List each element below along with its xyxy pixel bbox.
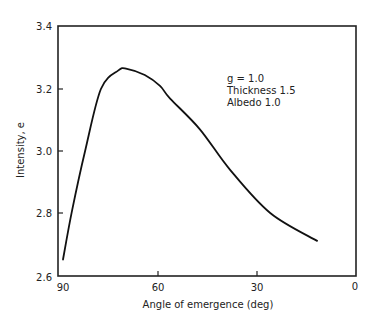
y-tick-label: 2.8 bbox=[36, 208, 52, 219]
x-tick-label: 30 bbox=[251, 282, 264, 293]
annotation-g: g = 1.0 bbox=[227, 73, 264, 84]
annotation-albedo: Albedo 1.0 bbox=[227, 97, 281, 108]
y-tick-label: 2.6 bbox=[36, 272, 52, 283]
x-tick-label: 90 bbox=[57, 282, 70, 293]
y-tick-label: 3.2 bbox=[36, 84, 52, 95]
annotation-thickness: Thickness 1.5 bbox=[226, 85, 296, 96]
x-axis-title: Angle of emergence (deg) bbox=[143, 299, 274, 310]
y-axis-title: Intensity, e bbox=[15, 122, 26, 178]
y-tick-label: 3.0 bbox=[36, 146, 52, 157]
x-tick-label: 60 bbox=[152, 282, 165, 293]
chart: 3.4 3.2 3.0 2.8 2.6 90 60 30 0 Angle of … bbox=[0, 0, 374, 329]
y-tick-label: 3.4 bbox=[36, 21, 52, 32]
x-tick-label: 0 bbox=[352, 281, 358, 292]
